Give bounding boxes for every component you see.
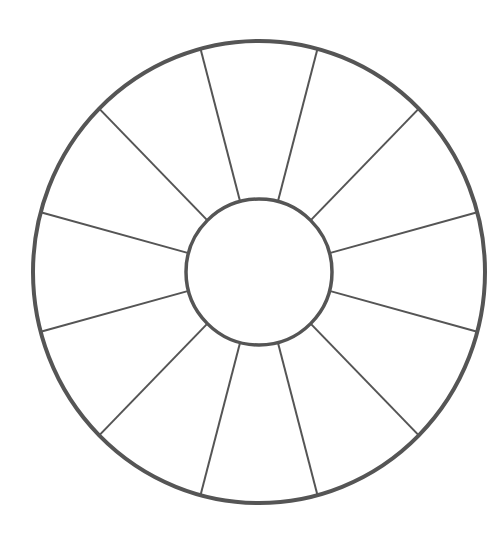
spoke-line <box>311 324 419 436</box>
spoke-line <box>41 291 189 332</box>
spoke-line <box>99 324 207 436</box>
spoke-line <box>201 49 241 202</box>
spoke-line <box>330 212 478 253</box>
spoke-line <box>311 109 419 221</box>
spoke-line <box>278 49 318 202</box>
spoke-line <box>278 343 318 496</box>
spoke-line <box>201 343 241 496</box>
spoke-line <box>41 212 189 253</box>
inner-circle <box>186 199 332 345</box>
spoke-line <box>99 109 207 221</box>
spoke-line <box>330 291 478 332</box>
segmented-wheel-diagram <box>0 0 504 538</box>
